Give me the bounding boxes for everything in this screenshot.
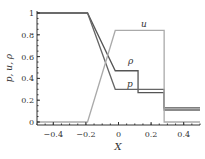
svg-text:0.4: 0.4 [21,74,34,83]
series-ρ-line [37,13,200,108]
y-axis-label: p, u, ρ [4,53,14,82]
svg-text:0.6: 0.6 [21,53,34,62]
svg-text:−0.2: −0.2 [76,130,95,139]
x-axis-label: X [113,141,122,152]
svg-text:0.2: 0.2 [21,96,34,105]
svg-text:0.4: 0.4 [177,130,190,139]
svg-text:1: 1 [29,9,34,18]
svg-text:−0.4: −0.4 [44,130,63,139]
rho-label: ρ [127,56,134,66]
svg-text:0: 0 [29,118,34,127]
svg-text:0.8: 0.8 [21,31,34,40]
svg-text:0: 0 [116,130,121,139]
u-label: u [141,19,147,29]
svg-text:0.2: 0.2 [145,130,158,139]
p-label: p [127,79,133,89]
series-p-line [37,13,200,110]
chart: 00.20.40.60.81−0.4−0.200.20.4 X p, u, ρ … [0,0,205,159]
